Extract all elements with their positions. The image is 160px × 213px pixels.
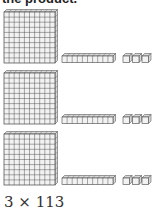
hundred-flat	[4, 10, 58, 64]
multiplication-expression: 3 × 113	[4, 193, 64, 211]
unit-cube	[123, 115, 132, 124]
unit-cube	[123, 54, 132, 63]
unit-cube	[133, 176, 142, 185]
unit-cube	[133, 115, 142, 124]
base-ten-blocks-diagram	[0, 0, 160, 196]
ten-rod	[62, 176, 116, 185]
unit-cube	[142, 54, 151, 63]
unit-cube	[123, 176, 132, 185]
hundred-flat	[4, 132, 58, 186]
unit-cube	[142, 115, 151, 124]
ten-rod	[62, 115, 116, 124]
unit-cube	[133, 54, 142, 63]
unit-cube	[142, 176, 151, 185]
ten-rod	[62, 54, 116, 63]
hundred-flat	[4, 71, 58, 125]
